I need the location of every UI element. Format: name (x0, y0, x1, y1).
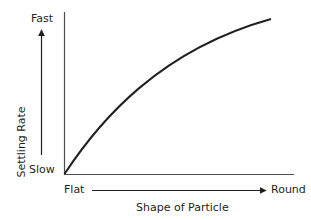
x-tick-flat: Flat (64, 184, 84, 195)
y-tick-slow: Slow (29, 164, 55, 175)
settling-rate-curve (65, 19, 272, 174)
y-tick-fast: Fast (31, 13, 53, 24)
y-axis-title: Settling Rate (16, 97, 27, 187)
chart-canvas (0, 0, 311, 220)
x-axis-title: Shape of Particle (136, 202, 229, 213)
x-tick-round: Round (271, 184, 306, 195)
